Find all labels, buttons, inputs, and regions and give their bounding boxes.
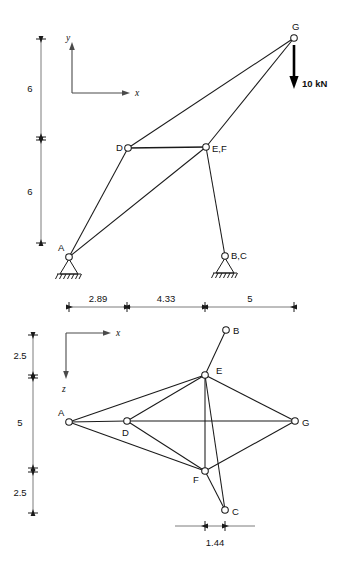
ground-hatch	[72, 274, 75, 279]
support-BC	[212, 258, 238, 278]
node-label-BC: B,C	[231, 250, 247, 261]
ground-hatch	[232, 273, 235, 278]
plan-x-axis-label: x	[115, 328, 121, 338]
plan-axis-indicator: x z	[61, 328, 121, 394]
member-A-F	[69, 422, 205, 471]
plan-z-axis-label: z	[61, 384, 66, 394]
elevation-x-axis-label: x	[134, 88, 140, 98]
dim-label-1-44: 1.44	[206, 537, 225, 548]
elevation-nodes: A D E,F B,C G	[58, 21, 299, 261]
member-EF-BC	[206, 147, 225, 256]
ground-hatch	[60, 274, 63, 279]
node-B	[223, 327, 230, 334]
load-label: 10 kN	[302, 78, 327, 89]
node-label-E: E	[216, 365, 222, 376]
dim-label-2-89: 2.89	[89, 293, 108, 304]
node-label-B: B	[233, 325, 239, 336]
node-label-EF: E,F	[212, 143, 227, 154]
node-label-D: D	[122, 427, 129, 438]
member-A-EF	[69, 147, 206, 257]
node-E	[202, 372, 209, 379]
node-C	[222, 507, 229, 514]
node-G	[292, 418, 299, 425]
node-D	[124, 418, 131, 425]
node-label-G: G	[302, 417, 309, 428]
elevation-dim-label-lower: 6	[27, 186, 32, 197]
member-D-EF	[128, 147, 206, 148]
dim-label-5: 5	[247, 293, 252, 304]
ground-hatch	[220, 273, 223, 278]
dim-label-4-33: 4.33	[157, 293, 176, 304]
ground-hatch	[212, 273, 215, 278]
z-axis-arrowhead	[63, 371, 69, 379]
elevation-axis-indicator: y x	[65, 33, 140, 98]
node-label-A: A	[58, 242, 65, 253]
elevation-vertical-dimension: 6 6	[27, 36, 46, 246]
load-arrow-10kN: 10 kN	[289, 45, 327, 89]
load-arrow-head	[289, 76, 298, 89]
plan-members	[69, 330, 295, 510]
member-E-G	[205, 375, 295, 421]
plan-horizontal-dimension: 1.44	[175, 521, 255, 548]
node-A	[66, 254, 73, 261]
ground-hatch	[79, 274, 82, 279]
node-D	[125, 145, 132, 152]
node-label-F: F	[193, 474, 199, 485]
elevation-horizontal-dimension: 2.89 4.33 5	[66, 293, 297, 312]
y-axis-arrowhead	[69, 42, 75, 50]
member-F-G	[205, 421, 295, 471]
plan-vertical-dimension: 2.5 5 2.5	[13, 332, 38, 516]
plan-dim-label-middle: 5	[17, 417, 22, 428]
member-A-D	[69, 421, 127, 422]
plan-dim-label-bottom: 2.5	[13, 487, 26, 498]
node-EF	[203, 144, 210, 151]
ground-hatch	[224, 273, 227, 278]
truss-diagram: 6 6 y x	[0, 0, 341, 567]
ground-hatch	[228, 273, 231, 278]
support-A	[56, 259, 82, 279]
ground-hatch	[216, 273, 219, 278]
elevation-y-axis-label: y	[65, 33, 71, 43]
ground-hatch	[64, 274, 67, 279]
node-label-A: A	[58, 407, 65, 418]
plan-view: 2.5 5 2.5 x z	[13, 325, 309, 548]
x-axis-arrowhead	[103, 330, 111, 336]
node-A	[66, 419, 73, 426]
node-label-D: D	[116, 142, 123, 153]
member-EF-G	[206, 38, 294, 147]
plan-dim-label-top: 2.5	[13, 350, 26, 361]
node-label-C: C	[232, 506, 239, 517]
ground-hatch	[56, 274, 59, 279]
pin-support-triangle	[60, 259, 78, 274]
elevation-members	[69, 38, 294, 257]
elevation-dim-label-upper: 6	[27, 83, 32, 94]
ground-hatch	[68, 274, 71, 279]
elevation-view: 6 6 y x	[27, 21, 327, 312]
node-BC	[222, 253, 229, 260]
member-A-D	[69, 148, 128, 257]
node-label-G: G	[292, 21, 299, 32]
node-F	[202, 468, 209, 475]
member-D-F	[127, 421, 205, 471]
ground-hatch	[235, 273, 238, 278]
ground-hatch	[76, 274, 79, 279]
x-axis-arrowhead	[122, 90, 130, 96]
node-G	[291, 35, 298, 42]
member-D-G	[128, 38, 294, 148]
